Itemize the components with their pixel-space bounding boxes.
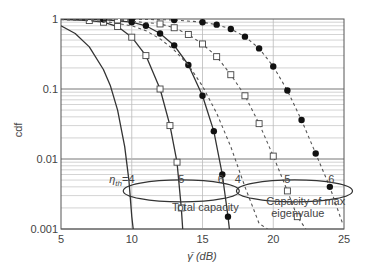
annotation-label: Capacity of maxeigenvalue [266, 195, 345, 219]
square-marker-icon [174, 159, 180, 165]
y-tick-label: 1 [52, 13, 58, 25]
square-marker-icon [284, 188, 290, 194]
circle-marker-icon [143, 23, 149, 29]
circle-marker-icon [242, 33, 248, 39]
circle-marker-icon [213, 21, 219, 27]
square-marker-icon [115, 17, 121, 23]
series-line [61, 16, 231, 229]
y-tick-label: 0.1 [43, 83, 58, 95]
circle-marker-icon [298, 117, 304, 123]
square-marker-icon [171, 25, 177, 31]
x-tick-label: 15 [196, 233, 208, 245]
annotation-label: 5 [284, 173, 290, 185]
y-tick-label: 0.01 [37, 153, 58, 165]
square-marker-icon [185, 32, 191, 38]
circle-marker-icon [211, 128, 217, 134]
circle-marker-icon [225, 213, 231, 219]
x-tick-label: 10 [126, 233, 138, 245]
square-marker-icon [228, 72, 234, 78]
circle-marker-icon [313, 150, 319, 156]
series-line [61, 18, 184, 229]
circle-marker-icon [284, 87, 290, 93]
circle-marker-icon [171, 42, 177, 48]
circle-marker-icon [157, 30, 163, 36]
square-marker-icon [157, 86, 163, 92]
square-marker-icon [214, 54, 220, 60]
annotation-label: 5 [178, 173, 184, 185]
circle-marker-icon [129, 16, 135, 22]
circle-marker-icon [171, 17, 177, 23]
y-tick-label: 0.001 [30, 223, 58, 235]
square-marker-icon [270, 153, 276, 159]
x-tick-label: 5 [58, 233, 64, 245]
annotation-label: Total capacity [172, 201, 239, 213]
circle-marker-icon [199, 93, 205, 99]
circle-marker-icon [199, 19, 205, 25]
square-marker-icon [157, 21, 163, 27]
x-tick-label: 25 [338, 233, 350, 245]
square-marker-icon [143, 53, 149, 59]
square-marker-icon [115, 24, 121, 30]
circle-marker-icon [228, 26, 234, 32]
square-marker-icon [256, 121, 262, 127]
x-tick-label: 20 [267, 233, 279, 245]
square-marker-icon [167, 123, 173, 129]
circle-marker-icon [256, 45, 262, 51]
series-line [61, 26, 133, 229]
annotation-label: 4 [235, 173, 241, 185]
y-axis-label: cdf [12, 122, 24, 138]
square-marker-icon [200, 41, 206, 47]
square-marker-icon [242, 93, 248, 99]
annotation-label: 6 [218, 173, 224, 185]
circle-marker-icon [270, 63, 276, 69]
cdf-chart: 51015202510.10.010.001 ηth=456456Total c… [0, 0, 365, 271]
square-marker-icon [129, 34, 135, 40]
annotation-label: 6 [328, 173, 334, 185]
circle-marker-icon [185, 62, 191, 68]
x-axis-label: γ̄ (dB) [187, 250, 217, 262]
